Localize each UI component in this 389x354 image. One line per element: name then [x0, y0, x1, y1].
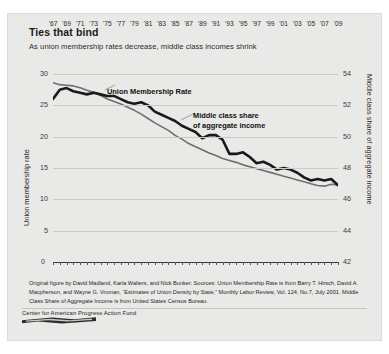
y-axis-left-tick: 5: [44, 227, 48, 234]
y-axis-right-tick: 54: [343, 70, 351, 77]
y-axis-right-label: Middle class share of aggregate income: [365, 74, 374, 262]
gridline: [53, 199, 338, 200]
x-axis-label: '67: [49, 20, 58, 27]
x-axis-label: '69: [62, 20, 71, 27]
x-axis-label: '99: [266, 20, 275, 27]
x-axis-tick: [209, 262, 210, 265]
x-axis-tick: [284, 262, 285, 265]
y-axis-right-tick: 44: [343, 227, 351, 234]
x-axis-label: '05: [306, 20, 315, 27]
x-axis-tick: [236, 262, 237, 265]
x-axis-tick: [291, 262, 292, 265]
x-axis-tick: [53, 262, 54, 265]
chart-subtitle: As union membership rates decrease, midd…: [29, 42, 257, 51]
x-axis-tick: [168, 262, 169, 265]
x-axis-tick: [67, 262, 68, 265]
y-axis-right-tick: 52: [343, 101, 351, 108]
gridline: [53, 105, 338, 106]
footer-divider: [22, 308, 367, 309]
footer: Center for American Progress Action Fund: [22, 310, 172, 324]
x-axis-tick: [87, 262, 88, 265]
y-axis-right-tick: 46: [343, 195, 351, 202]
x-axis-tick: [148, 262, 149, 265]
x-axis-tick: [257, 262, 258, 265]
x-axis-tick: [297, 262, 298, 265]
y-axis-left-tick: 30: [40, 70, 48, 77]
x-axis-label: '77: [116, 20, 125, 27]
x-axis-label: '01: [279, 20, 288, 27]
x-axis-tick: [189, 262, 190, 265]
chart-card: Ties that bind As union membership rates…: [8, 14, 381, 340]
x-axis-tick: [155, 262, 156, 265]
x-axis-tick: [141, 262, 142, 265]
x-axis-origin-label: 0: [41, 257, 45, 266]
cap-action-fund-logo-icon: [22, 317, 96, 324]
x-axis-tick: [114, 262, 115, 265]
x-axis-tick: [304, 262, 305, 265]
gridline: [53, 231, 338, 232]
x-axis-tick: [80, 262, 81, 265]
x-axis-tick: [229, 262, 230, 265]
x-axis-label: '81: [144, 20, 153, 27]
plot-area: 302520151050 54525048464442: [53, 74, 338, 262]
x-axis-tick: [270, 262, 271, 265]
y-axis-left-tick: 25: [40, 101, 48, 108]
x-axis-tick: [223, 262, 224, 265]
gridline: [53, 74, 338, 75]
gridline: [53, 137, 338, 138]
annotation-middle-line1: Middle class share: [193, 111, 265, 121]
x-axis-tick: [182, 262, 183, 265]
y-axis-left-tick: 20: [40, 133, 48, 140]
annotation-middle-line2: of aggregate income: [193, 121, 265, 131]
footer-org-name: Center for American Progress Action Fund: [22, 310, 172, 316]
x-axis-right-origin-label: 42: [343, 257, 351, 266]
x-axis-label: '07: [320, 20, 329, 27]
x-axis-tick: [331, 262, 332, 265]
x-axis-tick: [202, 262, 203, 265]
x-axis-tick: [121, 262, 122, 265]
x-axis-label: '83: [157, 20, 166, 27]
annotation-union-membership: Union Membership Rate: [107, 87, 192, 97]
annotation-middle-class: Middle class share of aggregate income: [193, 111, 265, 130]
gridline: [53, 168, 338, 169]
y-axis-right-tick: 48: [343, 164, 351, 171]
x-axis-tick: [196, 262, 197, 265]
x-axis-label: '87: [184, 20, 193, 27]
x-axis-label: '71: [76, 20, 85, 27]
x-axis-label: '09: [334, 20, 343, 27]
x-axis-tick: [243, 262, 244, 265]
x-axis-label: '97: [252, 20, 261, 27]
x-axis-tick: [263, 262, 264, 265]
x-axis: [53, 262, 338, 263]
x-axis-tick: [94, 262, 95, 265]
x-axis-label: '89: [198, 20, 207, 27]
x-axis-label: '91: [211, 20, 220, 27]
x-axis-label: '93: [225, 20, 234, 27]
x-axis-label: '03: [293, 20, 302, 27]
x-axis-tick: [277, 262, 278, 265]
y-axis-right-tick: 50: [343, 133, 351, 140]
x-axis-tick: [324, 262, 325, 265]
y-axis-left-label: Union membership rate: [22, 76, 31, 226]
x-axis-label: '75: [103, 20, 112, 27]
x-axis-tick: [216, 262, 217, 265]
y-axis-left-tick: 10: [40, 195, 48, 202]
x-axis-tick: [318, 262, 319, 265]
chart-title: Ties that bind: [29, 26, 98, 38]
x-axis-tick: [250, 262, 251, 265]
source-footnote: Original figure by David Madland, Karla …: [29, 279, 369, 307]
x-axis-label: '79: [130, 20, 139, 27]
x-axis-tick: [338, 262, 339, 265]
x-axis-tick: [60, 262, 61, 265]
x-axis-tick: [101, 262, 102, 265]
x-axis-tick: [73, 262, 74, 265]
x-axis-tick: [107, 262, 108, 265]
x-axis-tick: [175, 262, 176, 265]
y-axis-left-tick: 15: [40, 164, 48, 171]
x-axis-tick: [162, 262, 163, 265]
x-axis-tick: [311, 262, 312, 265]
x-axis-label: '73: [89, 20, 98, 27]
x-axis-label: '95: [239, 20, 248, 27]
x-axis-tick: [134, 262, 135, 265]
x-axis-label: '85: [171, 20, 180, 27]
